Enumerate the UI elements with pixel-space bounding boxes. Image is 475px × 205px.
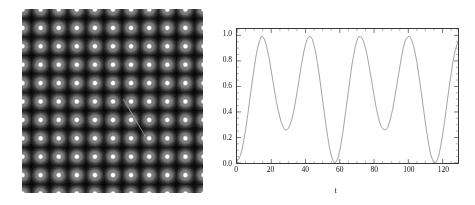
lattice-annotation-line	[22, 9, 203, 193]
x-tick-label: 40	[293, 166, 317, 174]
x-tick-label: 100	[397, 166, 421, 174]
figure-container: E[t(cosω,sinω),0)]T 0.00.20.40.60.81.0 0…	[0, 0, 475, 205]
y-tick-label: 0.8	[196, 56, 232, 64]
oscillation-plot-panel: E[t(cosω,sinω),0)]T 0.00.20.40.60.81.0 0…	[196, 0, 475, 205]
x-tick-label: 80	[362, 166, 386, 174]
x-tick-label: 20	[259, 166, 283, 174]
x-tick-label: 0	[224, 166, 248, 174]
curve-plot-area	[237, 29, 458, 163]
lattice-image-panel	[22, 9, 203, 193]
y-tick-label: 0.4	[196, 108, 232, 116]
x-tick-label: 120	[431, 166, 455, 174]
x-axis-label: t	[196, 186, 475, 195]
x-tick-label: 60	[328, 166, 352, 174]
y-tick-label: 1.0	[196, 30, 232, 38]
y-tick-label: 0.6	[196, 82, 232, 90]
plot-axes-frame	[236, 28, 459, 164]
data-series-curve	[237, 37, 458, 163]
y-tick-label: 0.2	[196, 134, 232, 142]
